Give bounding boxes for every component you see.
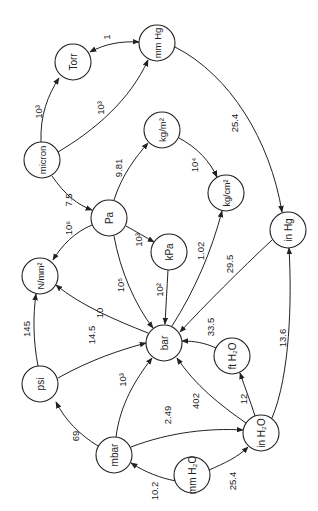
edge-label: 402 [190,393,201,409]
edge-label: 145 [21,321,32,337]
node-inh2o: in H₂O [243,415,279,451]
node-mmhg: mm Hg [139,25,175,61]
node-label: in H₂O [256,418,267,448]
node-inhg: in Hg [270,212,306,248]
edge-label: 25.4 [229,114,240,133]
node-kgm2: kg/m² [144,112,180,148]
edge-mbar-bar [116,358,152,437]
node-label: in Hg [283,218,294,241]
node-label: Pa [104,211,115,224]
edge-label: 10³ [95,101,106,115]
node-kpa: kPa [151,234,187,270]
edge-label: 9.81 [113,159,124,178]
edge-label: 33.5 [205,318,216,337]
node-mmh2o: mm H₂O [174,456,210,495]
node-label: mm H₂O [187,456,198,495]
edge-label: 2.49 [162,406,173,425]
node-label: micron [37,146,48,175]
edge-fth2o-bar [182,341,216,348]
edge-label: 10⁴ [189,158,200,173]
edge-label: 10 [94,308,105,319]
node-torr: Torr [55,44,91,80]
edge-mbar-inh2o [131,430,243,447]
edge-mmh2o-inh2o [209,447,248,470]
edge-psi-nmm2 [34,294,38,366]
conversion-diagram: 10³ 10³ 1 25.4 7.5 9.81 10⁴ 10⁶ 10³ 10⁵ … [0,0,318,511]
edge-label: 7.5 [63,193,74,206]
node-label: N/mm² [36,263,46,290]
edge-mmh2o-mbar [131,463,176,481]
edge-inhg-bar [180,240,272,332]
node-label: mm Hg [152,28,163,59]
edge-bar-kgcm2 [172,211,222,326]
edge-psi-bar [58,343,146,378]
edge-label: 12 [238,394,249,405]
node-label: kPa [164,243,175,261]
edge-label: 10⁵ [115,278,126,293]
edge-torr-mmhg [90,42,139,52]
edge-label: 13.6 [277,329,288,348]
node-label: Torr [68,53,79,71]
edge-label: 10² [154,283,165,297]
edge-label: 10³ [33,105,44,119]
node-label: kg/cm² [222,179,232,206]
node-kgcm2: kg/cm² [208,175,244,211]
edge-kpa-bar [165,270,168,324]
edge-label: 69 [70,431,81,442]
node-label: mbar [109,443,120,466]
node-label: psi [35,378,46,391]
node-bar: bar [146,325,182,361]
node-pa: Pa [91,200,127,236]
edge-label: 10³ [117,373,128,387]
node-micron: micron [24,142,60,178]
edge-label: 10.2 [149,482,160,501]
edge-label: 14.5 [86,326,97,345]
edge-label: 25.4 [227,472,238,491]
node-label: kg/m² [157,118,168,142]
node-label: ft H₂O [227,342,238,369]
edge-label: 10⁶ [63,221,74,236]
edge-label: 10³ [133,233,144,247]
edge-label: 1 [101,34,112,39]
node-label: bar [159,335,170,350]
edge-label: 29.5 [224,255,235,274]
node-fth2o: ft H₂O [214,338,250,374]
node-nmm2: N/mm² [22,258,58,294]
node-mbar: mbar [96,437,132,473]
node-psi: psi [22,366,58,402]
edge-label: 1.02 [195,242,206,261]
